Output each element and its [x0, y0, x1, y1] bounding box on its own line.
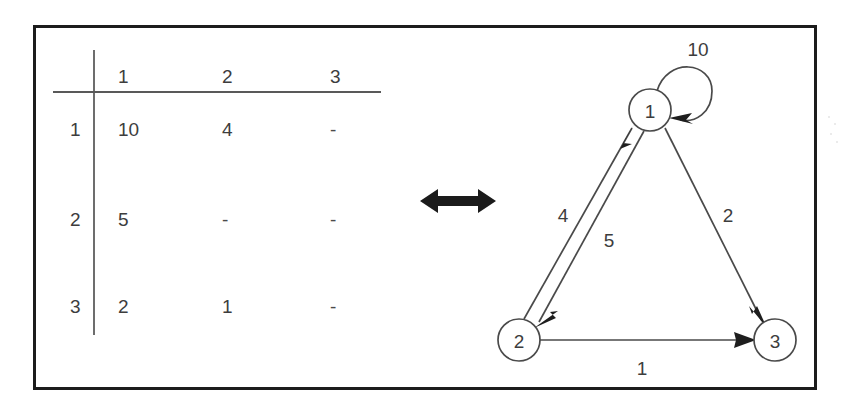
- matrix-horizontal-rule: [53, 91, 381, 93]
- scan-artifact: [826, 112, 840, 148]
- matrix-cell-r2c1: 5: [118, 210, 129, 229]
- weighted-directed-graph: 1 2 3 10 4 5 2 1: [420, 25, 817, 390]
- edge-1-to-3: [665, 128, 767, 328]
- edge-2-to-1: [524, 123, 635, 319]
- matrix-column-header-2: 2: [222, 67, 233, 86]
- edge-1-to-2: [534, 131, 644, 328]
- node-1-label: 1: [645, 101, 656, 122]
- matrix-cell-r1c2: 4: [222, 120, 233, 139]
- arrowhead-into-node-1: [620, 123, 635, 149]
- matrix-row-header-3: 3: [70, 297, 81, 316]
- adjacency-matrix: 1 2 3 1 10 4 - 2 5 - - 3 2 1 -: [33, 25, 403, 390]
- arrowhead-into-node-3-from-2: [734, 332, 756, 348]
- matrix-cell-r1c1: 10: [118, 120, 139, 139]
- matrix-column-header-1: 1: [118, 67, 129, 86]
- edge-weight-self-loop: 10: [687, 39, 708, 60]
- edge-weight-1-to-3: 2: [723, 205, 734, 226]
- matrix-column-header-3: 3: [330, 67, 341, 86]
- matrix-cell-r3c3: -: [330, 297, 336, 316]
- matrix-cell-r1c3: -: [330, 120, 336, 139]
- edge-weight-2-to-3: 1: [637, 358, 648, 379]
- edge-weight-2-to-1: 4: [558, 205, 569, 226]
- matrix-cell-r2c3: -: [330, 210, 336, 229]
- edge-weight-1-to-2: 5: [604, 230, 615, 251]
- matrix-row-header-1: 1: [70, 120, 81, 139]
- matrix-cell-r3c1: 2: [118, 297, 129, 316]
- arrowhead-self-loop-into-node-1: [669, 113, 693, 124]
- graph-canvas: 1 2 3 10 4 5 2 1: [420, 25, 817, 390]
- edge-2-to-3: [540, 332, 756, 348]
- node-3-label: 3: [770, 331, 781, 352]
- matrix-cell-r3c2: 1: [222, 297, 233, 316]
- node-2[interactable]: 2: [498, 319, 540, 361]
- matrix-cell-r2c2: -: [222, 210, 228, 229]
- matrix-row-header-2: 2: [70, 210, 81, 229]
- node-3[interactable]: 3: [754, 319, 796, 361]
- node-2-label: 2: [514, 331, 525, 352]
- node-1[interactable]: 1: [629, 89, 671, 131]
- arrowhead-into-node-2: [534, 311, 558, 328]
- figure-root: 1 2 3 1 10 4 - 2 5 - - 3 2 1 -: [0, 0, 848, 412]
